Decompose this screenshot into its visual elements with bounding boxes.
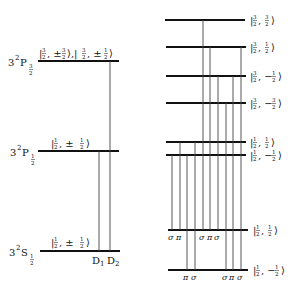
svg-text:⟩: ⟩	[109, 48, 113, 59]
svg-text:σ: σ	[168, 233, 174, 242]
right-zeeman-sublevels: σ π σ π σ π σ σ π σ | 32 , 32 ⟩ | 32 , 1…	[165, 14, 285, 282]
svg-text:2: 2	[272, 77, 276, 83]
svg-text:⟩: ⟩	[86, 138, 90, 149]
svg-text:3: 3	[272, 97, 276, 103]
ket-r-3-2-m1-2: | 32 , − 12 ⟩	[250, 70, 282, 83]
svg-text:2: 2	[17, 144, 21, 152]
svg-text:σ: σ	[214, 233, 220, 242]
ket-3p-3-2: | 32 , ± 32 ⟩,| 32 , ± 12 ⟩	[39, 47, 113, 60]
d1-label: D1	[92, 255, 105, 268]
svg-text:3: 3	[253, 14, 257, 20]
svg-text:σ: σ	[191, 273, 197, 282]
svg-text:1: 1	[256, 264, 260, 270]
svg-text:2: 2	[82, 54, 86, 60]
svg-text:σ: σ	[199, 233, 205, 242]
svg-text:⟩: ⟩	[281, 265, 285, 276]
term-label-3p-1-2: 32P 12	[10, 144, 35, 166]
svg-text:1: 1	[104, 47, 108, 53]
svg-text:3: 3	[253, 41, 257, 47]
ket-r-1-2-m1-2-upper: | 12 , − 12 ⟩	[250, 149, 282, 162]
svg-text:2: 2	[15, 54, 19, 62]
svg-text:2: 2	[272, 104, 276, 110]
svg-text:1: 1	[80, 137, 84, 143]
svg-text:2: 2	[80, 144, 84, 150]
svg-text:, −: , −	[261, 265, 276, 276]
svg-text:2: 2	[265, 48, 269, 54]
svg-text:2: 2	[30, 260, 34, 266]
svg-text:,: ,	[258, 15, 261, 26]
ket-r-3-2-m3-2: | 32 , − 32 ⟩	[250, 97, 282, 110]
svg-text:⟩: ⟩	[278, 150, 282, 161]
svg-text:3: 3	[42, 47, 46, 53]
svg-text:1: 1	[272, 70, 276, 76]
ket-3s-1-2: | 12 , ± 12 ⟩	[51, 236, 90, 249]
svg-text:2: 2	[256, 231, 260, 237]
svg-text:1: 1	[253, 149, 257, 155]
svg-text:2: 2	[253, 48, 257, 54]
svg-text:1: 1	[275, 264, 279, 270]
ket-r-1-2-m1-2-lower: | 12 , − 12 ⟩	[253, 264, 285, 277]
svg-text:π: π	[206, 233, 213, 242]
svg-text:π: π	[228, 273, 235, 282]
svg-text:⟩: ⟩	[278, 98, 282, 109]
svg-text:3: 3	[62, 47, 66, 53]
svg-text:⟩: ⟩	[274, 225, 278, 236]
svg-text:2: 2	[272, 156, 276, 162]
svg-text:1: 1	[30, 253, 34, 259]
svg-text:2: 2	[62, 54, 66, 60]
svg-text:⟩: ⟩	[86, 237, 90, 248]
left-fine-structure: 32P 32 32P 12 32S 12 | 32 , ± 32 ⟩,| 32 …	[8, 47, 120, 268]
svg-text:, ±: , ±	[87, 48, 102, 59]
svg-text:⟩: ⟩	[271, 15, 275, 26]
svg-text:3: 3	[9, 247, 15, 258]
svg-text:3: 3	[253, 70, 257, 76]
svg-text:1: 1	[256, 224, 260, 230]
svg-text:2: 2	[104, 54, 108, 60]
d2-label: D2	[107, 255, 120, 268]
svg-text:1: 1	[268, 224, 272, 230]
svg-text:σ: σ	[237, 273, 243, 282]
svg-text:2: 2	[54, 144, 58, 150]
ket-r-3-2-3-2: | 32 , 32 ⟩	[250, 14, 275, 27]
svg-text:S: S	[21, 247, 28, 258]
svg-text:3: 3	[253, 97, 257, 103]
svg-text:2: 2	[29, 70, 33, 76]
lower-polarization-labels: π σ σ π σ	[182, 273, 243, 282]
svg-text:, −: , −	[258, 150, 273, 161]
svg-text:2: 2	[42, 54, 46, 60]
svg-text:⟩: ⟩	[271, 42, 275, 53]
svg-text:2: 2	[265, 21, 269, 27]
svg-text:2: 2	[268, 231, 272, 237]
svg-text:π: π	[175, 233, 182, 242]
svg-text:,: ,	[261, 225, 264, 236]
term-label-3s-1-2: 32S 12	[9, 244, 34, 266]
svg-text:, −: , −	[258, 71, 273, 82]
ket-r-1-2-1-2-lower: | 12 , 12 ⟩	[253, 224, 278, 237]
svg-text:3: 3	[10, 147, 16, 158]
svg-text:1: 1	[80, 236, 84, 242]
svg-text:⟩,|: ⟩,|	[67, 48, 77, 60]
ket-r-1-2-1-2-upper: | 12 , 12 ⟩	[250, 136, 275, 149]
svg-text:1: 1	[54, 236, 58, 242]
svg-text:3: 3	[8, 57, 14, 68]
svg-text:1: 1	[265, 41, 269, 47]
svg-text:2: 2	[54, 243, 58, 249]
svg-text:1: 1	[265, 136, 269, 142]
svg-text:P: P	[20, 57, 27, 68]
svg-text:2: 2	[253, 77, 257, 83]
ket-3p-1-2: | 12 , ± 12 ⟩	[51, 137, 90, 150]
svg-text:,: ,	[258, 42, 261, 53]
svg-text:σ: σ	[222, 273, 228, 282]
ket-r-3-2-1-2: | 32 , 12 ⟩	[250, 41, 275, 54]
svg-text:⟩: ⟩	[271, 137, 275, 148]
svg-text:2: 2	[80, 243, 84, 249]
svg-text:3: 3	[82, 47, 86, 53]
upper-polarization-labels: σ π σ π σ	[168, 233, 220, 242]
svg-text:1: 1	[253, 136, 257, 142]
svg-text:2: 2	[253, 21, 257, 27]
svg-text:3: 3	[265, 14, 269, 20]
svg-text:, ±: , ±	[59, 237, 74, 248]
svg-text:P: P	[22, 147, 29, 158]
svg-text:⟩: ⟩	[278, 71, 282, 82]
svg-text:1: 1	[272, 149, 276, 155]
